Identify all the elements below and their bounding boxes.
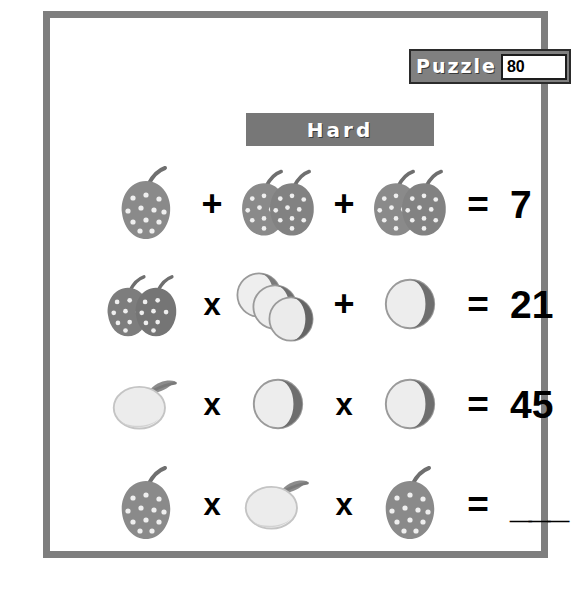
term-strawberry-pair bbox=[100, 262, 192, 346]
answer-blank[interactable]: ___ bbox=[500, 485, 575, 524]
operator-plus: + bbox=[192, 186, 232, 222]
term-lemon-whole bbox=[100, 362, 192, 446]
operator-times: x bbox=[192, 389, 232, 420]
strawberry-icon bbox=[115, 465, 177, 543]
lemon-half-icon bbox=[264, 292, 318, 346]
strawberry-icon bbox=[264, 168, 320, 240]
operator-plus: + bbox=[324, 286, 364, 322]
lemon-whole-icon bbox=[109, 373, 183, 435]
strawberry-icon bbox=[115, 165, 177, 243]
strawberry-pair bbox=[232, 162, 324, 246]
operator-times: x bbox=[192, 289, 232, 320]
equation-row: + bbox=[100, 154, 575, 254]
operator-times: x bbox=[324, 389, 364, 420]
equals-sign: = bbox=[456, 386, 500, 423]
result-value: 45 bbox=[500, 385, 575, 424]
lemon-half-icon bbox=[249, 375, 307, 433]
result-value: 21 bbox=[500, 285, 575, 324]
equation-row: x bbox=[100, 254, 575, 354]
term-lemon-half-single bbox=[364, 262, 456, 346]
equals-sign: = bbox=[456, 486, 500, 523]
lemon-half-icon bbox=[381, 275, 439, 333]
difficulty-label: Hard bbox=[307, 120, 373, 140]
puzzle-label: Puzzle bbox=[416, 57, 501, 76]
strawberry-pair bbox=[364, 162, 456, 246]
equation-row: x x bbox=[100, 454, 575, 554]
term-strawberry-3 bbox=[364, 162, 456, 246]
term-strawberry-1 bbox=[100, 162, 192, 246]
equals-sign: = bbox=[456, 286, 500, 323]
term-lemon-whole bbox=[232, 462, 324, 546]
result-value: 7 bbox=[500, 185, 575, 224]
lemon-half-stack bbox=[232, 262, 324, 346]
term-strawberry-b bbox=[364, 462, 456, 546]
equation-row: x x = 45 bbox=[100, 354, 575, 454]
operator-plus: + bbox=[324, 186, 364, 222]
operator-times: x bbox=[192, 489, 232, 520]
strawberry-icon bbox=[396, 168, 452, 240]
puzzle-number-input[interactable]: 80 bbox=[501, 54, 567, 80]
term-lemon-half-b bbox=[364, 362, 456, 446]
strawberry-pair bbox=[100, 262, 192, 346]
equation-list: + bbox=[100, 154, 575, 554]
operator-times: x bbox=[324, 489, 364, 520]
term-lemon-half-triple bbox=[232, 262, 324, 346]
strawberry-icon bbox=[379, 465, 441, 543]
lemon-whole-icon bbox=[241, 473, 315, 535]
strawberry-icon bbox=[130, 274, 182, 340]
term-lemon-half-a bbox=[232, 362, 324, 446]
difficulty-banner: Hard bbox=[246, 113, 434, 146]
puzzle-frame: Puzzle 80 Hard bbox=[43, 11, 548, 558]
lemon-half-icon bbox=[381, 375, 439, 433]
term-strawberry-2 bbox=[232, 162, 324, 246]
term-strawberry-a bbox=[100, 462, 192, 546]
equals-sign: = bbox=[456, 186, 500, 223]
puzzle-selector[interactable]: Puzzle 80 bbox=[409, 49, 571, 84]
